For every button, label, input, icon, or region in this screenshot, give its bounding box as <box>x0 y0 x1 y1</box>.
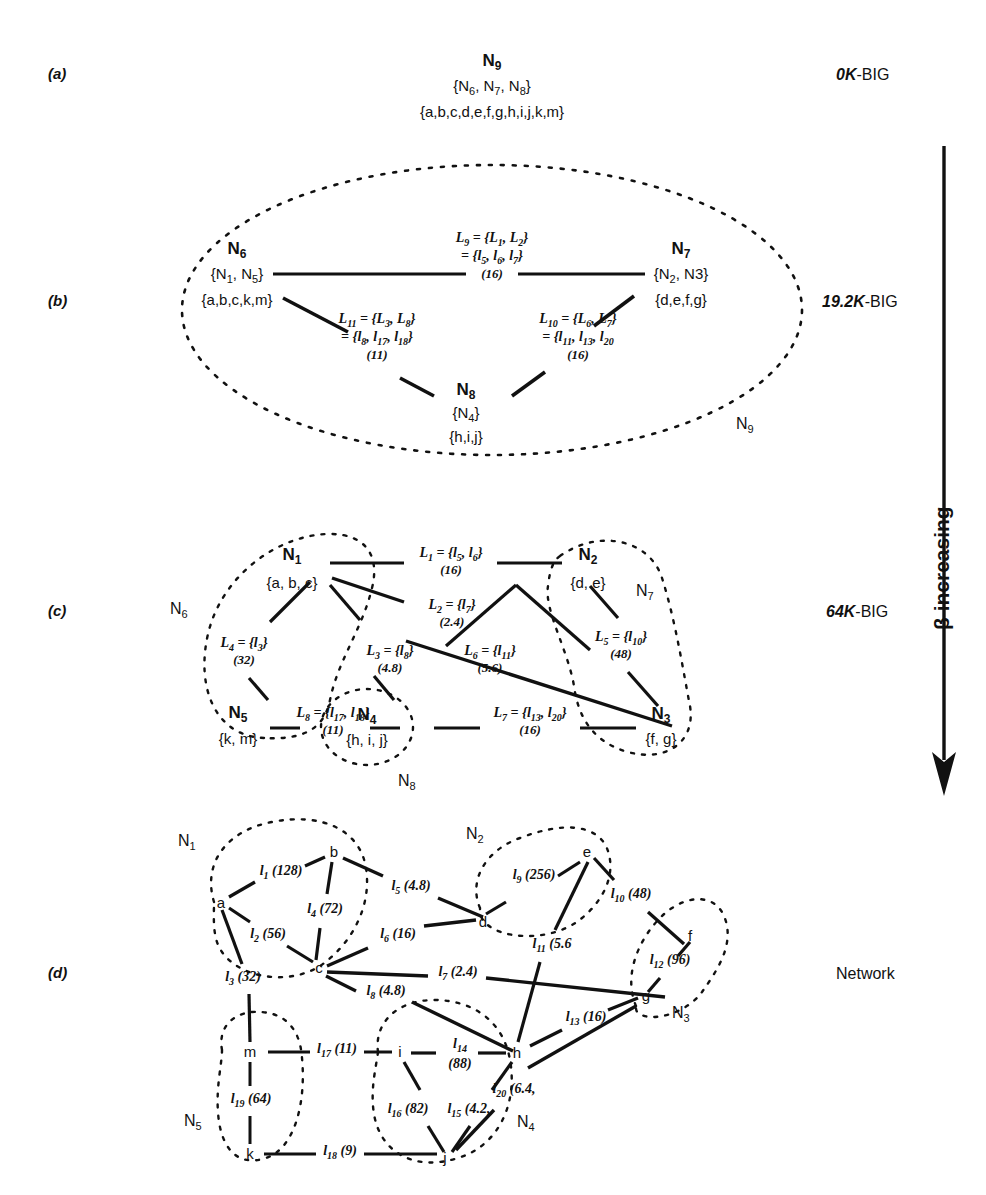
edge-label-l16: l16 (82) <box>388 1101 429 1119</box>
panel-c-link-l6: L6 = {l11}(5.6) <box>464 643 516 676</box>
panel-b-node-n7-name: N7 <box>672 239 691 262</box>
edge-label-l5: l5 (4.8) <box>391 878 430 896</box>
vertex-f: f <box>688 928 692 945</box>
edge-label-l3: l3 (32) <box>225 969 261 987</box>
vertex-c: c <box>315 960 323 977</box>
panel-b-node-n8-members: {h,i,j} <box>449 429 482 446</box>
edge-label-l15: l15 (4.2, <box>447 1101 490 1119</box>
vertex-k: k <box>246 1146 254 1163</box>
panel-a-cluster-name: N9 <box>483 51 502 74</box>
edge-label-l8: l8 (4.8) <box>366 983 405 1001</box>
panel-d-tag-n4: N4 <box>517 1113 535 1134</box>
edge-label-l1: l1 (128) <box>260 863 303 881</box>
edge-label-l12: l12 (96) <box>650 952 691 970</box>
edge-label-l18: l18 (9) <box>323 1143 357 1161</box>
panel-b-link-l11: L11 = {L3, L8} = {l8, l17, l18} (11) <box>339 311 416 363</box>
panel-b-link-l10: L10 = {L6, L7} = {l11, l13, l20 (16) <box>539 311 616 363</box>
panel-c-node-n2-name: N2 <box>579 545 598 568</box>
figure-vector-layer <box>0 0 986 1195</box>
figure-canvas: (a) (b) (c) (d) 0K-BIG 19.2K-BIG 64K-BIG… <box>0 0 986 1195</box>
edge-label-l13: l13 (16) <box>566 1009 607 1027</box>
panel-letter-a: (a) <box>48 66 66 83</box>
vertex-j: j <box>443 1150 446 1167</box>
panel-letter-c: (c) <box>48 603 66 620</box>
panel-c-node-n5-name: N5 <box>229 703 248 726</box>
vertex-i: i <box>398 1044 401 1061</box>
cluster-outline-n9 <box>182 165 802 455</box>
edge-label-l9: l9 (256) <box>513 867 556 885</box>
panel-a-children: {N6, N7, N8} <box>453 78 531 97</box>
cluster-outline-d-n1 <box>211 819 367 977</box>
panel-c-outer-tag-n7: N7 <box>636 582 654 603</box>
edge-label-l4: l4 (72) <box>307 901 343 919</box>
edge-label-l10: l10 (48) <box>611 886 652 904</box>
panel-b-link-l9: L9 = {L1, L2} = {l5, l6, l7} (16) <box>456 230 528 282</box>
panel-c-node-n3-members: {f, g} <box>646 731 677 748</box>
panel-b-node-n8-name: N8 <box>457 380 476 403</box>
vertex-h: h <box>513 1045 521 1062</box>
edge-label-l14: l14 <box>453 1036 467 1054</box>
beta-increasing-label: β increasing <box>930 506 954 630</box>
panel-c-outer-tag-n8: N8 <box>398 772 416 793</box>
panel-c-link-l5: L5 = {l10}(48) <box>595 629 647 662</box>
stage-label-network: Network <box>836 965 895 983</box>
panel-d-tag-n5: N5 <box>184 1112 202 1133</box>
panel-c-link-l4: L4 = {l3}(32) <box>220 635 267 668</box>
panel-letter-d: (d) <box>48 965 67 982</box>
edge-label-l7: l7 (2.4) <box>438 964 477 982</box>
edge-label-l2: l2 (56) <box>250 926 286 944</box>
panel-c-link-l8: L8 = {l17, l18}(11) <box>296 705 369 738</box>
vertex-g: g <box>642 988 650 1005</box>
stage-label-0k: 0K-BIG <box>836 66 889 84</box>
stage-label-64k: 64K-BIG <box>826 603 888 621</box>
vertex-m: m <box>244 1044 257 1061</box>
panel-b-outer-tag-n9: N9 <box>736 415 754 436</box>
panel-d-tag-n2: N2 <box>466 825 484 846</box>
panel-b-node-n7-children: {N2, N3} <box>654 266 709 285</box>
panel-b-node-n6-members: {a,b,c,k,m} <box>202 292 273 309</box>
vertex-e: e <box>583 844 591 861</box>
panel-b-graphics <box>182 165 802 455</box>
cluster-outline-d-n4 <box>373 1000 512 1162</box>
panel-b-node-n7-members: {d,e,f,g} <box>655 292 707 309</box>
edge-label-l17: l17 (11) <box>317 1041 357 1059</box>
panel-c-node-n1-name: N1 <box>283 545 302 568</box>
panel-a-members: {a,b,c,d,e,f,g,h,i,j,k,m} <box>420 104 564 121</box>
panel-b-node-n8-children: {N4} <box>453 405 480 424</box>
panel-d-tag-n3: N3 <box>672 1004 690 1025</box>
edge-label-l11: l11 (5.6 <box>532 936 571 954</box>
panel-c-node-n1-members: {a, b, c} <box>267 575 318 592</box>
panel-c-node-n5-members: {k, m} <box>219 731 257 748</box>
beta-increasing-arrow <box>932 146 956 796</box>
panel-c-link-l2: L2 = {l7}(2.4) <box>428 597 475 630</box>
vertex-b: b <box>330 844 338 861</box>
panel-c-link-l1: L1 = {l5, l6}(16) <box>419 545 482 578</box>
edge-label-l20: l20 (6.4, <box>492 1081 535 1099</box>
edge-label-l14-weight: (88) <box>448 1056 471 1072</box>
panel-c-outer-tag-n6: N6 <box>170 600 188 621</box>
panel-b-node-n6-children: {N1, N5} <box>211 266 263 285</box>
panel-d-tag-n1: N1 <box>178 832 196 853</box>
panel-c-link-l3: L3 = {l8}(4.8) <box>366 643 413 676</box>
edge-label-l6: l6 (16) <box>380 926 416 944</box>
cluster-outline-d-n5 <box>218 1012 303 1161</box>
vertex-a: a <box>217 895 225 912</box>
vertex-d: d <box>479 914 487 931</box>
panel-letter-b: (b) <box>48 293 67 310</box>
panel-c-link-l7: L7 = {l13, l20}(16) <box>493 705 566 738</box>
panel-c-node-n2-members: {d, e} <box>570 575 605 592</box>
edge-label-l19: l19 (64) <box>231 1091 272 1109</box>
panel-b-node-n6-name: N6 <box>228 239 247 262</box>
stage-label-19k: 19.2K-BIG <box>822 293 898 311</box>
panel-c-node-n3-name: N3 <box>652 704 671 727</box>
